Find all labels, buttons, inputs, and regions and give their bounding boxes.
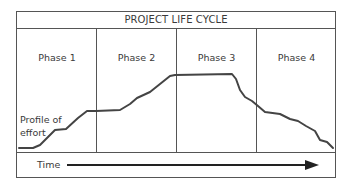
effort-profile-curve	[0, 0, 354, 189]
